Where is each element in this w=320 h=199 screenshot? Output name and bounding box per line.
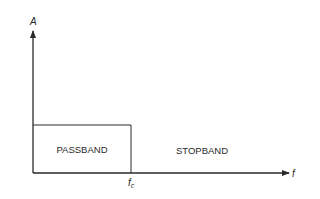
x-axis-label: f (292, 168, 296, 179)
cutoff-frequency-label: fc (128, 177, 135, 189)
passband-label: PASSBAND (56, 144, 107, 155)
lowpass-filter-diagram: A f PASSBAND STOPBAND fc (0, 0, 320, 199)
stopband-label: STOPBAND (176, 145, 228, 156)
y-axis-label: A (29, 16, 37, 27)
